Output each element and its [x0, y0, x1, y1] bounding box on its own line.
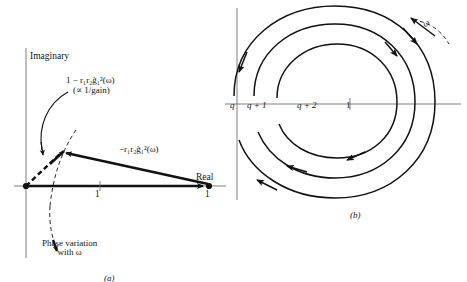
phase-variation-line2: with ω: [42, 248, 97, 257]
spiral-loop-middle: [254, 24, 415, 178]
panel-b-spiral-diagram: q q + 1 q + 2 1 ω (b): [225, 0, 467, 282]
phase-variation-arc: [50, 130, 76, 206]
panel-b-graphics: [225, 0, 467, 282]
tick-label-one: 1: [346, 101, 351, 110]
phase-variation-label: Phase variation with ω: [42, 239, 97, 258]
figure-page: Imaginary Real 1 − r₁r₂g̃₁²(ω) (∝ 1/gain…: [0, 0, 467, 282]
gain-vector: [66, 153, 208, 184]
gain-expression-leader: [41, 92, 68, 150]
unit-vector-label: 1: [95, 190, 100, 200]
tick-label-q-plus-2: q + 2: [297, 101, 317, 110]
real-axis-label: Real: [196, 173, 213, 183]
arrow-outer-upper-right: [403, 28, 417, 44]
panel-a-phasor-diagram: Imaginary Real 1 − r₁r₂g̃₁²(ω) (∝ 1/gain…: [0, 0, 234, 282]
panel-a-graphics: [0, 0, 234, 282]
gain-expression-line2: (∝ 1/gain): [73, 86, 115, 95]
panel-b-caption: (b): [350, 211, 361, 220]
unit-tip-label: 1: [205, 190, 210, 200]
tick-label-q: q: [230, 101, 235, 110]
gain-vector-label: −r₁r₂g̃₁²(ω): [119, 145, 159, 154]
gain-expression-label: 1 − r₁r₂g̃₁²(ω) (∝ 1/gain): [66, 76, 115, 96]
spiral-loop-inner: [277, 44, 397, 158]
tick-label-q-plus-1: q + 1: [247, 101, 267, 110]
arrow-inner-bottom: [347, 152, 365, 160]
imaginary-axis-label: Imaginary: [30, 52, 69, 62]
panel-a-caption: (a): [104, 274, 115, 282]
gain-expression-line1: 1 − r₁r₂g̃₁²(ω): [66, 75, 115, 85]
